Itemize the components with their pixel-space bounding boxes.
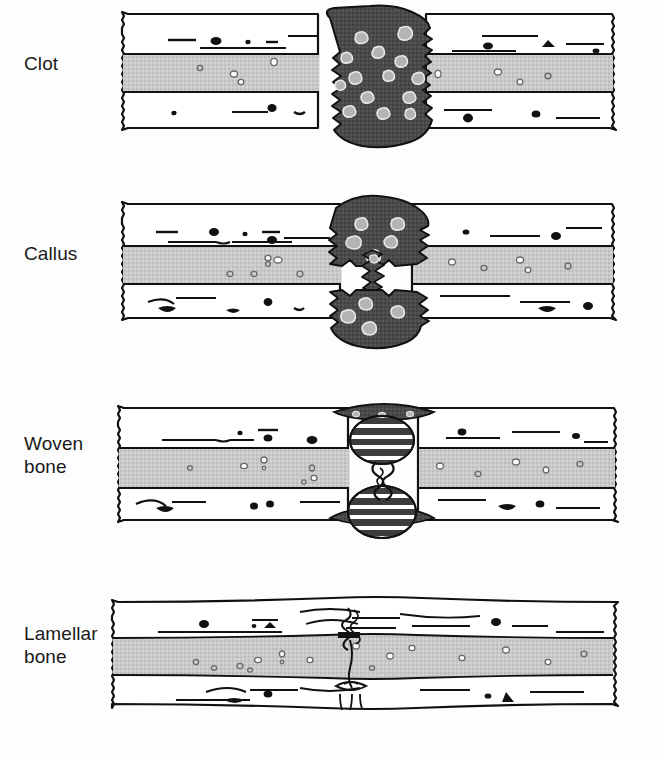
panel-lamellar-bone: Lamellar bone bbox=[0, 580, 658, 758]
bone-shaft-left bbox=[122, 202, 341, 320]
panel-art-callus bbox=[0, 190, 658, 380]
panel-woven-bone: Woven bone bbox=[0, 390, 658, 580]
woven-bone-oval-lower bbox=[346, 486, 420, 538]
bone-shaft-right bbox=[412, 204, 616, 320]
callus-lower bbox=[330, 290, 429, 348]
panel-callus: Callus bbox=[0, 190, 658, 380]
panel-clot: Clot bbox=[0, 0, 658, 190]
woven-bone-oval-upper bbox=[348, 416, 418, 466]
panel-art-lamellar-bone bbox=[0, 580, 658, 758]
clot-mass bbox=[327, 6, 432, 148]
fracture-healing-figure: Clot bbox=[0, 0, 658, 758]
bone-shaft-left bbox=[122, 12, 319, 130]
panel-art-clot bbox=[0, 0, 658, 190]
bone-shaft-right bbox=[418, 408, 618, 522]
panel-art-woven-bone bbox=[0, 390, 658, 580]
bone-shaft-right bbox=[426, 14, 616, 130]
bone-shaft-left bbox=[118, 406, 349, 522]
